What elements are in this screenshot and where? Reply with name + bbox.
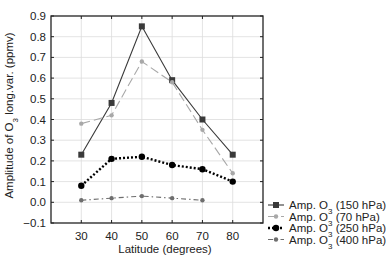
x-tick-label: 40	[105, 230, 118, 242]
data-point	[79, 121, 83, 125]
data-point	[109, 100, 115, 106]
data-point	[78, 183, 84, 189]
y-tick-label: 0.6	[30, 72, 46, 84]
series-line	[81, 26, 232, 154]
x-tick-label: 60	[166, 230, 179, 242]
data-point	[109, 113, 113, 117]
legend-label: Amp. O3 (400 hPa)	[289, 234, 386, 251]
x-axis-label: Latitude (degrees)	[118, 243, 212, 255]
data-point	[139, 23, 145, 29]
y-tick-label: −0.1	[23, 217, 46, 229]
y-axis-label-prefix: Amplitude of O	[3, 122, 15, 198]
y-tick-label: 0.2	[30, 155, 46, 167]
data-point	[139, 154, 145, 160]
x-tick-label: 70	[196, 230, 209, 242]
data-point	[78, 152, 84, 158]
grid-lines	[51, 16, 263, 223]
y-axis-label: Amplitude of O3 long.var. (ppmv)	[3, 32, 20, 198]
data-point	[109, 196, 113, 200]
legend-item: Amp. O3 (400 hPa)	[268, 234, 386, 251]
data-point	[140, 59, 144, 63]
data-point	[199, 166, 205, 172]
legend-swatch-marker	[274, 214, 278, 218]
data-point	[170, 196, 174, 200]
axis-ticks: 304050607080−0.10.00.10.20.30.40.50.60.7…	[23, 10, 263, 242]
series-0	[78, 23, 235, 157]
data-point	[170, 80, 174, 84]
data-point	[199, 117, 205, 123]
data-point	[79, 198, 83, 202]
y-tick-label: 0.8	[30, 31, 46, 43]
y-tick-label: 0.3	[30, 134, 46, 146]
x-tick-label: 30	[75, 230, 88, 242]
data-point	[230, 178, 236, 184]
y-tick-label: 0.0	[30, 196, 46, 208]
legend-swatch-marker	[273, 202, 279, 208]
y-tick-label: 0.1	[30, 176, 46, 188]
y-axis-label-suffix: long.var. (ppmv)	[3, 32, 15, 118]
x-tick-label: 80	[226, 230, 239, 242]
data-point	[200, 198, 204, 202]
data-point	[231, 171, 235, 175]
y-tick-label: 0.9	[30, 10, 46, 22]
legend: Amp. O3 (150 hPa)Amp. O3 (70 hPa)Amp. O3…	[268, 199, 386, 250]
data-point	[230, 152, 236, 158]
data-point	[108, 156, 114, 162]
x-tick-label: 50	[135, 230, 148, 242]
y-tick-label: 0.4	[30, 114, 47, 126]
legend-swatch-marker	[273, 225, 279, 231]
series-layer	[78, 23, 236, 202]
series-2	[78, 154, 236, 189]
legend-swatch-marker	[274, 237, 278, 241]
y-tick-label: 0.5	[30, 93, 46, 105]
line-chart: 304050607080−0.10.00.10.20.30.40.50.60.7…	[0, 0, 391, 263]
data-point	[140, 194, 144, 198]
data-point	[200, 128, 204, 132]
y-tick-label: 0.7	[30, 51, 46, 63]
data-point	[169, 162, 175, 168]
